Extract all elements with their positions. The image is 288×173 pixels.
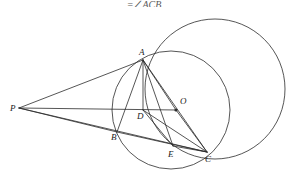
point-label-A: A xyxy=(138,47,145,57)
point-label-P: P xyxy=(9,103,16,113)
segment-AE xyxy=(143,60,173,146)
point-label-O: O xyxy=(180,96,187,106)
diagram-page: =∠ACB PABCDEO xyxy=(0,0,288,173)
point-label-B: B xyxy=(111,132,117,142)
segment-AB xyxy=(117,60,143,132)
segment-AC xyxy=(143,60,207,152)
segment-AO xyxy=(143,60,176,110)
segment-DC xyxy=(143,110,207,152)
point-label-C: C xyxy=(205,154,212,164)
point-dots-group xyxy=(174,108,177,111)
segment-PO xyxy=(19,108,176,110)
segment-PA xyxy=(19,60,143,108)
point-label-D: D xyxy=(136,111,144,121)
point-dot-O xyxy=(174,108,177,111)
geometry-figure: PABCDEO xyxy=(0,0,288,173)
point-label-E: E xyxy=(167,149,174,159)
